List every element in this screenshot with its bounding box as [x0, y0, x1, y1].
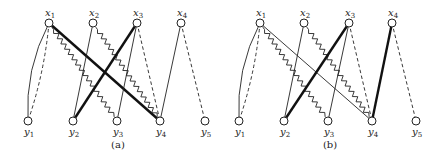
node-label-y1: y1 — [234, 126, 245, 139]
node-label-x3: x3 — [345, 7, 355, 20]
edge-x4-y4-thin — [160, 23, 181, 121]
node-label-y5: y5 — [200, 126, 211, 139]
node-label-x4: x4 — [177, 7, 188, 20]
panel-a-nodes: x1x2x3x4y1y2y3y4y5 — [23, 7, 211, 139]
panel-b-nodes: x1x2x3x4y1y2y3y4y5 — [234, 7, 422, 139]
node-y1 — [235, 117, 243, 125]
edge-x3-y4-dashed — [349, 23, 372, 121]
edge-x1-y1-thin — [239, 23, 260, 121]
node-x3 — [345, 19, 353, 27]
node-x4 — [388, 19, 396, 27]
panel-a-edges — [28, 23, 205, 121]
node-y5 — [201, 117, 209, 125]
node-label-x1: x1 — [45, 7, 55, 20]
panel-b-caption: (b) — [323, 139, 337, 150]
node-label-x4: x4 — [388, 7, 399, 20]
node-x1 — [45, 19, 53, 27]
panel-a: x1x2x3x4y1y2y3y4y5 (a) — [23, 7, 211, 150]
node-y2 — [280, 117, 288, 125]
node-label-y3: y3 — [112, 126, 123, 139]
node-label-y5: y5 — [411, 126, 422, 139]
edge-x1-y1-thin — [28, 23, 49, 121]
node-x1 — [256, 19, 264, 27]
edge-x4-y5-dashed — [181, 23, 205, 121]
node-label-y2: y2 — [68, 126, 79, 139]
edge-x4-y5-dashed — [392, 23, 416, 121]
node-y3 — [324, 117, 332, 125]
panel-b-edges — [239, 23, 416, 121]
node-y2 — [69, 117, 77, 125]
node-label-x1: x1 — [256, 7, 266, 20]
edge-x4-y4-bold — [372, 23, 392, 121]
bipartite-graph-figure: x1x2x3x4y1y2y3y4y5 (a) x1x2x3x4y1y2y3y4y… — [0, 0, 441, 164]
node-label-y2: y2 — [279, 126, 290, 139]
node-x2 — [300, 19, 308, 27]
figure-canvas: x1x2x3x4y1y2y3y4y5 (a) x1x2x3x4y1y2y3y4y… — [0, 0, 441, 164]
node-label-x2: x2 — [300, 7, 310, 20]
node-y1 — [24, 117, 32, 125]
node-label-x2: x2 — [89, 7, 99, 20]
node-y4 — [156, 117, 164, 125]
node-label-y4: y4 — [155, 126, 167, 139]
node-x2 — [89, 19, 97, 27]
panel-b: x1x2x3x4y1y2y3y4y5 (b) — [234, 7, 422, 150]
node-label-x3: x3 — [133, 7, 143, 20]
panel-a-caption: (a) — [111, 139, 125, 150]
node-y5 — [412, 117, 420, 125]
node-x4 — [177, 19, 185, 27]
node-label-y4: y4 — [367, 126, 379, 139]
node-x3 — [133, 19, 141, 27]
node-y3 — [113, 117, 121, 125]
node-label-y3: y3 — [323, 126, 334, 139]
node-label-y1: y1 — [23, 126, 34, 139]
node-y4 — [368, 117, 376, 125]
